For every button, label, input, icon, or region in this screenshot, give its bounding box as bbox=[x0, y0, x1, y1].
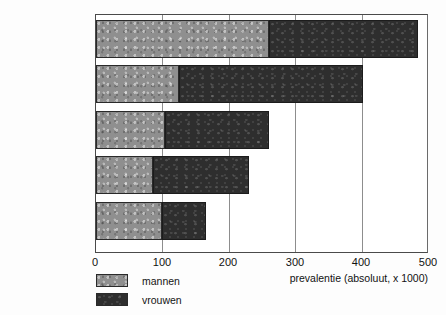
bar-segment-vrouwen bbox=[269, 20, 418, 58]
bar-row-dorsopathieen bbox=[96, 156, 249, 194]
bar-row-cara bbox=[96, 20, 418, 58]
xtick-label-400: 400 bbox=[352, 256, 370, 268]
xtick-label-300: 300 bbox=[286, 256, 304, 268]
legend: mannen vrouwen bbox=[96, 271, 182, 309]
bar-segment-mannen bbox=[96, 111, 165, 149]
xtick-label-100: 100 bbox=[153, 256, 171, 268]
bar-row-artrose bbox=[96, 65, 363, 103]
bar-segment-mannen bbox=[96, 202, 162, 240]
bar-segment-mannen bbox=[96, 156, 153, 194]
bar-row-coronaire-hartziekten bbox=[96, 202, 206, 240]
xtick-label-500: 500 bbox=[419, 256, 437, 268]
bar-segment-vrouwen bbox=[179, 65, 363, 103]
legend-item-mannen: mannen bbox=[96, 271, 182, 290]
legend-swatch-vrouwen bbox=[96, 293, 128, 306]
xtick-label-200: 200 bbox=[219, 256, 237, 268]
bar-segment-vrouwen bbox=[165, 111, 269, 149]
x-axis-title: prevalentie (absoluut, x 1000) bbox=[290, 272, 428, 284]
bar-segment-vrouwen bbox=[153, 156, 249, 194]
bar-row-diabetes-mellitus bbox=[96, 111, 269, 149]
legend-item-vrouwen: vrouwen bbox=[96, 290, 182, 309]
bar-segment-mannen bbox=[96, 20, 269, 58]
bar-segment-mannen bbox=[96, 65, 179, 103]
xtick-label-0: 0 bbox=[92, 256, 98, 268]
legend-label-mannen: mannen bbox=[142, 275, 180, 287]
chart-page: CARA artrose diabetes mellitus dorsopath… bbox=[0, 0, 446, 315]
legend-label-vrouwen: vrouwen bbox=[142, 294, 182, 306]
legend-swatch-mannen bbox=[96, 274, 128, 287]
bar-segment-vrouwen bbox=[162, 202, 206, 240]
plot-area bbox=[95, 14, 428, 253]
